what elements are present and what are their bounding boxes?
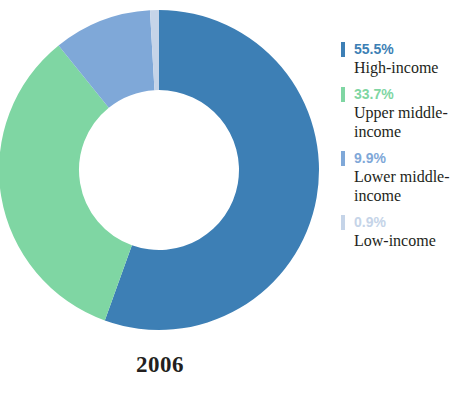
legend-item-upper-middle-income[interactable]: 33.7% Upper middle-income xyxy=(341,86,474,141)
legend-head: 9.9% xyxy=(341,150,474,166)
legend-percent: 0.9% xyxy=(354,215,386,230)
legend-label: Lower middle-income xyxy=(354,167,474,205)
legend-head: 55.5% xyxy=(341,41,474,57)
donut-slice-group xyxy=(0,10,319,330)
chart-legend: 55.5% High-income 33.7% Upper middle-inc… xyxy=(341,41,474,259)
donut-chart-figure: 2006 55.5% High-income 33.7% Upper middl… xyxy=(0,0,474,398)
legend-label: High-income xyxy=(354,58,474,77)
legend-item-lower-middle-income[interactable]: 9.9% Lower middle-income xyxy=(341,150,474,205)
legend-swatch-icon xyxy=(341,151,345,166)
legend-swatch-icon xyxy=(341,215,345,230)
legend-item-low-income[interactable]: 0.9% Low-income xyxy=(341,214,474,250)
legend-percent: 9.9% xyxy=(354,151,386,166)
donut-chart-graphic xyxy=(0,0,330,345)
year-caption: 2006 xyxy=(0,352,320,378)
legend-percent: 55.5% xyxy=(354,42,394,57)
legend-head: 33.7% xyxy=(341,86,474,102)
legend-percent: 33.7% xyxy=(354,87,394,102)
legend-item-high-income[interactable]: 55.5% High-income xyxy=(341,41,474,77)
legend-swatch-icon xyxy=(341,87,345,102)
donut-svg xyxy=(0,0,330,345)
legend-label: Upper middle-income xyxy=(354,103,474,141)
legend-swatch-icon xyxy=(341,42,345,57)
legend-label: Low-income xyxy=(354,231,474,250)
legend-head: 0.9% xyxy=(341,214,474,230)
